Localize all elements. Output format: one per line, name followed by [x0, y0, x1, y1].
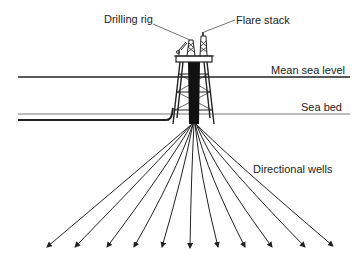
- well-10: [196, 124, 305, 247]
- well-1: [47, 124, 192, 247]
- directional-wells-label: Directional wells: [253, 163, 332, 175]
- well-6: [190, 124, 194, 248]
- well-9: [196, 124, 272, 247]
- sea-bed-label: Sea bed: [301, 101, 342, 113]
- flare-stack-leader: [204, 20, 235, 32]
- flare-stack-tower: [200, 32, 207, 56]
- well-2: [75, 124, 192, 247]
- drilling-rig-label: Drilling rig: [104, 13, 153, 25]
- drilling-rig-derrick: [187, 40, 195, 56]
- platform-deck: [174, 56, 214, 62]
- diagram-canvas: [0, 0, 356, 263]
- offshore-drilling-diagram: Drilling rig Flare stack Mean sea level …: [0, 0, 356, 263]
- flare-stack-label: Flare stack: [236, 14, 290, 26]
- well-4: [134, 124, 193, 247]
- crane: [177, 42, 188, 56]
- conductor-bundle: [188, 62, 200, 124]
- mean-sea-level-label: Mean sea level: [271, 64, 345, 76]
- directional-wells: [47, 124, 333, 248]
- well-11: [196, 124, 333, 246]
- well-8: [195, 124, 245, 247]
- drilling-rig-leader: [153, 24, 190, 40]
